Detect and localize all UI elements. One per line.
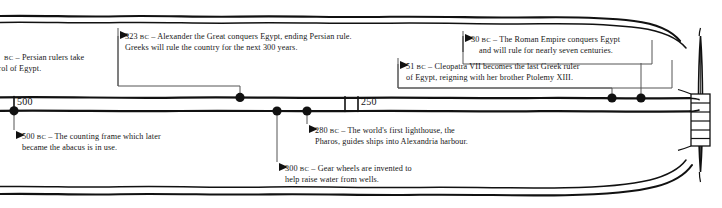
scroll-timeline-figure: 500 250 BC – Persian rulers take trol of… xyxy=(0,0,722,208)
note-gear-wheels-year: 300 xyxy=(285,164,298,173)
note-roman-empire: 30 BC – The Roman Empire conquers Egypt … xyxy=(471,34,620,57)
note-roman-empire-dash: – xyxy=(493,35,497,44)
note-persian-rulers-line1: Persian rulers take xyxy=(22,53,84,62)
note-alexander-line1: Alexander the Great conquers Egypt, endi… xyxy=(157,32,352,41)
note-persian-rulers: BC – Persian rulers take trol of Egypt. xyxy=(0,52,84,75)
note-cleopatra-line2: of Egypt, reigning with her brother Ptol… xyxy=(406,72,579,83)
note-persian-rulers-dash: – xyxy=(16,53,20,62)
timeline-band xyxy=(0,97,699,112)
note-alexander-era: BC xyxy=(140,33,149,40)
note-alexander-year: 323 xyxy=(125,32,138,41)
dot-323bc xyxy=(235,93,244,102)
note-gear-wheels-line1: Gear wheels are invented to xyxy=(318,164,412,173)
note-cleopatra-year: 51 xyxy=(406,62,414,71)
note-abacus-era: BC xyxy=(37,133,46,140)
note-abacus-line2: became the abacus is in use. xyxy=(22,142,161,153)
note-cleopatra: 51 BC – Cleopatra VII becomes the last G… xyxy=(406,61,579,84)
note-gear-wheels: 300 BC – Gear wheels are invented to hel… xyxy=(285,163,412,186)
axis-tick-label-250: 250 xyxy=(361,96,377,107)
dot-51bc xyxy=(607,93,616,102)
note-alexander: 323 BC – Alexander the Great conquers Eg… xyxy=(125,31,352,54)
note-cleopatra-line1: Cleopatra VII becomes the last Greek rul… xyxy=(434,62,579,71)
note-pharos-era: BC xyxy=(330,127,339,134)
note-roman-empire-line1: The Roman Empire conquers Egypt xyxy=(499,35,620,44)
note-pharos-line1: The world's first lighthouse, the xyxy=(348,126,455,135)
note-abacus-dash: – xyxy=(48,132,52,141)
note-cleopatra-era: BC xyxy=(417,63,426,70)
note-abacus-year: 500 xyxy=(22,132,35,141)
dot-300bc xyxy=(272,106,281,115)
note-gear-wheels-dash: – xyxy=(311,164,315,173)
dot-500bc xyxy=(9,106,18,115)
note-alexander-line2: Greeks will rule the country for the nex… xyxy=(125,42,352,53)
note-abacus-line1: The counting frame which later xyxy=(55,132,161,141)
note-roman-empire-year: 30 xyxy=(471,35,479,44)
note-alexander-dash: – xyxy=(151,32,155,41)
note-pharos: 280 BC – The world's first lighthouse, t… xyxy=(315,125,468,148)
note-pharos-year: 280 xyxy=(315,126,328,135)
note-gear-wheels-era: BC xyxy=(300,165,309,172)
note-persian-rulers-line2: trol of Egypt. xyxy=(0,63,84,74)
note-roman-empire-line2: and will rule for nearly seven centuries… xyxy=(471,45,620,56)
note-pharos-dash: – xyxy=(341,126,345,135)
note-abacus: 500 BC – The counting frame which later … xyxy=(22,131,161,154)
note-pharos-line2: Pharos, guides ships into Alexandria har… xyxy=(315,136,468,147)
axis-tick-label-500: 500 xyxy=(17,96,33,107)
note-persian-rulers-era: BC xyxy=(4,54,13,61)
note-cleopatra-dash: – xyxy=(428,62,432,71)
note-gear-wheels-line2: help raise water from wells. xyxy=(285,174,412,185)
note-roman-empire-era: BC xyxy=(482,36,491,43)
dot-30bc xyxy=(636,93,645,102)
dot-280bc xyxy=(302,106,311,115)
